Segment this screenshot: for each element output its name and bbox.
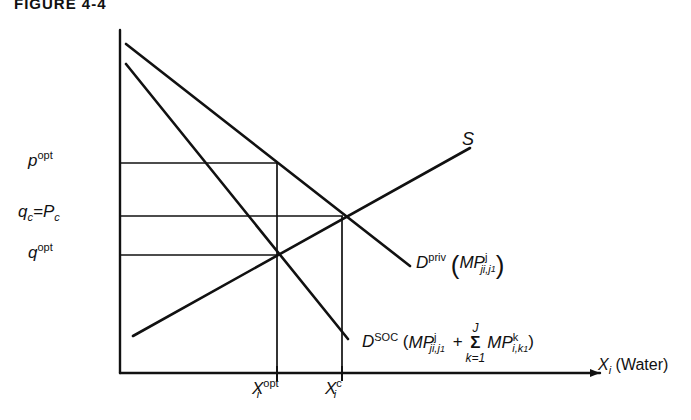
supply-curve-label: S <box>462 130 474 148</box>
demand-private-label: Dpriv (MPjji,j1) <box>416 252 504 278</box>
supply-curve <box>133 148 470 336</box>
y-tick-label-q-opt: qopt <box>28 242 53 261</box>
x-axis-title: Xi (Water) <box>598 357 668 376</box>
summation-operator: JΣk=1 <box>466 322 486 364</box>
demand-private-curve <box>126 44 410 266</box>
y-tick-label-qc-pc: qc=Pc <box>18 203 60 223</box>
supply-demand-plot <box>0 0 691 420</box>
y-tick-label-p-opt: popt <box>28 150 53 169</box>
demand-social-label: DSOC (MPjji,j1 +JΣk=1MPki,k1) <box>362 322 534 364</box>
demand-social-curve <box>126 64 348 339</box>
x-tick-label-x-c: Xci <box>325 378 336 400</box>
x-tick-label-x-opt: Xopti <box>252 378 259 400</box>
figure-container: FIGURE 4-4 popt qc=Pc qopt Xopti <box>0 0 691 420</box>
